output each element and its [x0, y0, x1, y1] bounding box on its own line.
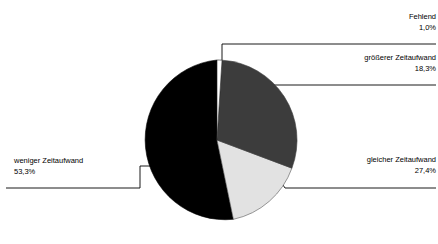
callout-gleicher-category: gleicher Zeitaufwand — [367, 154, 436, 165]
callout-gleicher-zeitaufwand: gleicher Zeitaufwand 27,4% — [367, 154, 436, 176]
callout-weniger-value: 53,3% — [14, 166, 83, 177]
leader-line-groesserer — [271, 85, 436, 89]
callout-fehlend-value: 1,0% — [409, 22, 436, 33]
leader-line-gleicher — [279, 179, 436, 188]
pie-chart-figure: Fehlend 1,0% größerer Zeitaufwand 18,3% … — [0, 0, 438, 244]
callout-fehlend: Fehlend 1,0% — [409, 11, 436, 33]
callout-fehlend-category: Fehlend — [409, 11, 436, 22]
pie-chart-graphic — [0, 0, 438, 244]
callout-gleicher-value: 27,4% — [367, 165, 436, 176]
pie-slices — [145, 60, 297, 220]
callout-groesserer-value: 18,3% — [364, 63, 436, 74]
callout-groesserer-zeitaufwand: größerer Zeitaufwand 18,3% — [364, 52, 436, 74]
callout-weniger-category: weniger Zeitaufwand — [14, 155, 83, 166]
callout-groesserer-category: größerer Zeitaufwand — [364, 52, 436, 63]
callout-weniger-zeitaufwand: weniger Zeitaufwand 53,3% — [14, 155, 83, 177]
